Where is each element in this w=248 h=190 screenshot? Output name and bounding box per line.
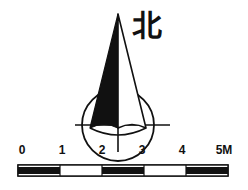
scale-tick-label-5m: 5M (216, 143, 233, 158)
needle-left-filled (90, 14, 118, 128)
scale-bar: 0 1 2 3 4 5M (0, 143, 248, 187)
scale-tick-label-3: 3 (139, 143, 146, 158)
scale-tick-label-2: 2 (99, 143, 106, 158)
scale-tick-label-0: 0 (19, 143, 26, 158)
scale-tick-label-row: 0 1 2 3 4 5M (0, 143, 248, 161)
scale-bar-graphic (0, 162, 248, 184)
scale-tick-label-4: 4 (179, 143, 186, 158)
figure-root: 北 0 1 2 3 4 5M (0, 0, 248, 190)
north-label: 北 (128, 8, 166, 46)
scale-tick-label-1: 1 (59, 143, 66, 158)
